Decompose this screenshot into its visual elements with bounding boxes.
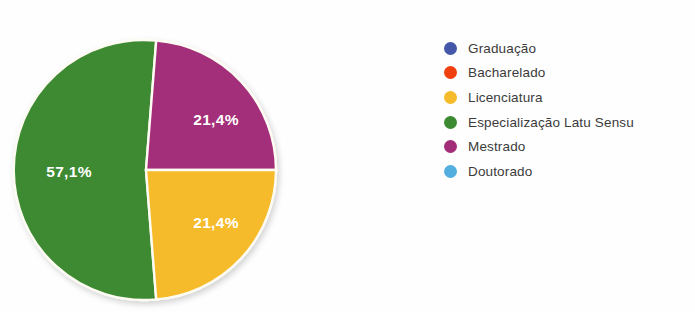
chart-legend: Graduação Bacharelado Licenciatura Espec… [441,36,691,184]
legend-item-mestrado[interactable]: Mestrado [441,134,691,159]
pie-label-mestrado: 21,4% [193,111,238,128]
legend-swatch-icon [444,116,457,129]
pie-label-licenciatura: 21,4% [193,214,238,231]
legend-swatch-icon [444,66,457,79]
legend-label: Graduação [468,41,536,56]
legend-item-graduacao[interactable]: Graduação [441,36,691,61]
pie-slice-mestrado[interactable] [146,41,276,170]
legend-swatch-icon [444,140,457,153]
pie-chart-area: 21,4% 21,4% 57,1% [0,0,310,312]
legend-item-licenciatura[interactable]: Licenciatura [441,85,691,110]
pie-slice-licenciatura[interactable] [146,170,276,299]
legend-label: Licenciatura [468,90,543,105]
legend-label: Especialização Latu Sensu [468,115,634,130]
pie-chart-figure: 21,4% 21,4% 57,1% Graduação Bacharelado … [0,0,695,312]
pie-label-especializacao: 57,1% [46,163,91,180]
legend-swatch-icon [444,91,457,104]
legend-swatch-icon [444,165,457,178]
legend-label: Bacharelado [468,65,545,80]
legend-label: Doutorado [468,164,532,179]
legend-item-especializacao-latu-sensu[interactable]: Especialização Latu Sensu [441,110,691,135]
legend-swatch-icon [444,42,457,55]
legend-label: Mestrado [468,139,525,154]
legend-item-doutorado[interactable]: Doutorado [441,159,691,184]
pie-chart-svg: 21,4% 21,4% 57,1% [0,0,310,312]
legend-item-bacharelado[interactable]: Bacharelado [441,61,691,86]
